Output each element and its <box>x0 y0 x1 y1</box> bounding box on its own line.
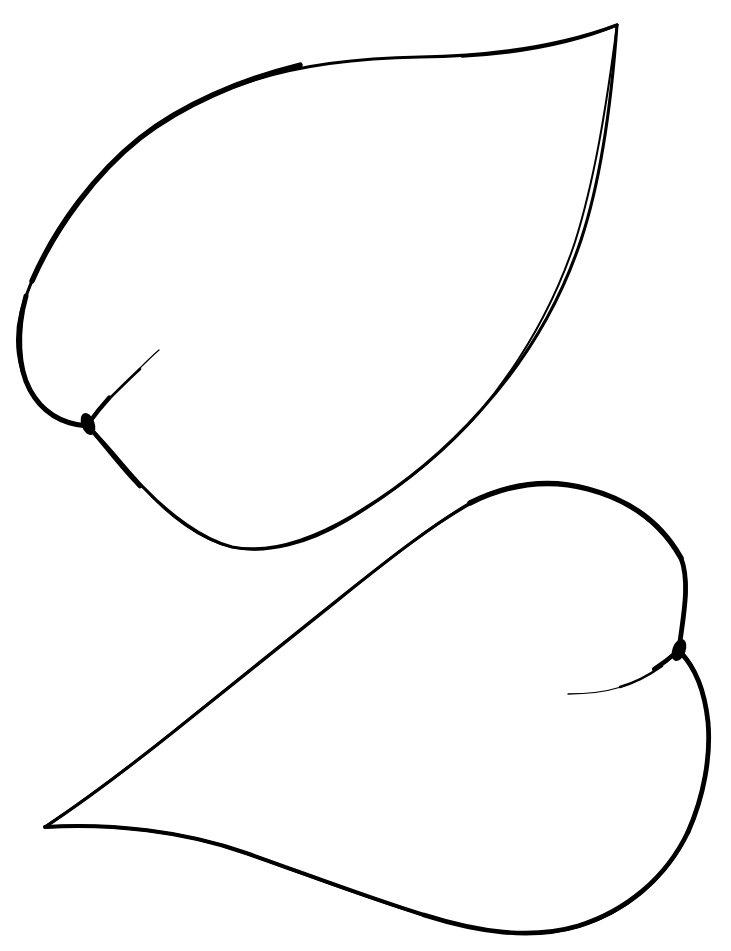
leaf-illustration-svg <box>0 0 731 951</box>
drawing-canvas <box>0 0 731 951</box>
paper-background <box>0 0 731 951</box>
